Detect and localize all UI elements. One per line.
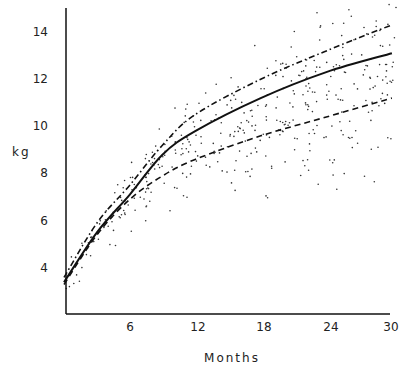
data-point bbox=[234, 131, 236, 133]
data-point bbox=[107, 225, 109, 227]
y-tick-8: 8 bbox=[40, 166, 48, 180]
data-point bbox=[314, 133, 316, 135]
data-point bbox=[302, 160, 304, 162]
data-point bbox=[251, 125, 253, 127]
data-point bbox=[73, 283, 75, 285]
data-point bbox=[303, 70, 305, 72]
data-point bbox=[330, 76, 332, 78]
data-point bbox=[265, 155, 267, 157]
data-point bbox=[374, 181, 376, 183]
data-point bbox=[250, 153, 252, 155]
data-point bbox=[382, 46, 384, 48]
data-point bbox=[315, 71, 317, 73]
data-point bbox=[79, 281, 81, 283]
data-point bbox=[237, 86, 239, 88]
data-point bbox=[307, 90, 309, 92]
data-point bbox=[76, 274, 78, 276]
data-point bbox=[176, 187, 178, 189]
data-point bbox=[86, 254, 88, 256]
data-point bbox=[81, 242, 83, 244]
data-point bbox=[369, 88, 371, 90]
data-point bbox=[300, 175, 302, 177]
data-point bbox=[230, 100, 232, 102]
data-point bbox=[353, 105, 355, 107]
data-point bbox=[308, 106, 310, 108]
data-point bbox=[175, 149, 177, 151]
data-point bbox=[190, 144, 192, 146]
data-point bbox=[186, 176, 188, 178]
data-point bbox=[326, 62, 328, 64]
data-point bbox=[169, 210, 171, 212]
data-point bbox=[251, 116, 253, 118]
x-tick-labels: 6 12 18 24 30 bbox=[126, 320, 398, 334]
data-point bbox=[341, 111, 343, 113]
data-point bbox=[327, 99, 329, 101]
data-point bbox=[152, 152, 154, 154]
data-point bbox=[191, 166, 193, 168]
data-point bbox=[230, 77, 232, 79]
data-point bbox=[316, 125, 318, 127]
data-point bbox=[363, 74, 365, 76]
data-point bbox=[319, 67, 321, 69]
data-point bbox=[213, 143, 215, 145]
data-point bbox=[186, 104, 188, 106]
data-point bbox=[309, 150, 311, 152]
data-point bbox=[193, 121, 195, 123]
data-point bbox=[194, 126, 196, 128]
data-point bbox=[154, 158, 156, 160]
data-point bbox=[343, 23, 345, 25]
data-point bbox=[335, 94, 337, 96]
data-point bbox=[123, 210, 125, 212]
data-point bbox=[145, 177, 147, 179]
data-point bbox=[309, 143, 311, 145]
data-point bbox=[380, 45, 382, 47]
data-point bbox=[239, 150, 241, 152]
data-point bbox=[161, 165, 163, 167]
data-point bbox=[316, 66, 318, 68]
data-point bbox=[385, 76, 387, 78]
data-point bbox=[289, 122, 291, 124]
data-point bbox=[308, 133, 310, 135]
data-point bbox=[351, 137, 353, 139]
data-point bbox=[181, 134, 183, 136]
data-point bbox=[343, 173, 345, 175]
data-point bbox=[282, 63, 284, 65]
y-tick-14: 14 bbox=[33, 25, 48, 39]
data-point bbox=[372, 36, 374, 38]
data-point bbox=[149, 201, 151, 203]
data-point bbox=[182, 143, 184, 145]
data-point bbox=[200, 136, 202, 138]
data-point bbox=[248, 121, 250, 123]
growth-chart: 4 6 8 10 12 14 6 12 18 24 30 kg Months bbox=[0, 0, 410, 372]
data-point bbox=[280, 63, 282, 65]
data-point bbox=[265, 105, 267, 107]
data-point bbox=[385, 64, 387, 66]
data-point bbox=[276, 119, 278, 121]
data-point bbox=[122, 187, 124, 189]
data-point bbox=[231, 107, 233, 109]
x-axis-label: Months bbox=[204, 351, 260, 365]
data-point bbox=[377, 147, 379, 149]
data-point bbox=[340, 88, 342, 90]
data-point bbox=[293, 90, 295, 92]
data-point bbox=[71, 256, 73, 258]
data-point bbox=[221, 122, 223, 124]
data-point bbox=[387, 24, 389, 26]
data-point bbox=[188, 141, 190, 143]
data-point bbox=[368, 111, 370, 113]
data-point bbox=[243, 112, 245, 114]
data-point bbox=[333, 66, 335, 68]
data-point bbox=[197, 155, 199, 157]
data-point bbox=[181, 148, 183, 150]
data-point bbox=[255, 124, 257, 126]
data-point bbox=[285, 64, 287, 66]
dashed-curve bbox=[64, 98, 392, 284]
data-point bbox=[332, 174, 334, 176]
data-point bbox=[353, 83, 355, 85]
data-point bbox=[127, 204, 129, 206]
data-point bbox=[305, 102, 307, 104]
data-point bbox=[387, 137, 389, 139]
data-point bbox=[395, 7, 397, 9]
data-point bbox=[238, 131, 240, 133]
data-point bbox=[233, 95, 235, 97]
